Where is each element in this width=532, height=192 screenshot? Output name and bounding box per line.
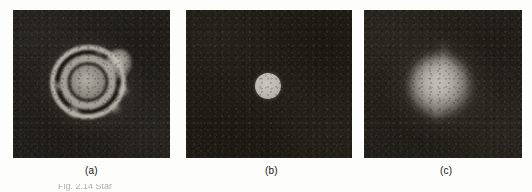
panel-c-label: (c) <box>440 165 452 176</box>
figure-caption-text: Fig. 2.14 Star <box>58 184 112 191</box>
ring-core <box>70 65 105 99</box>
panel-a-label: (a) <box>85 165 98 176</box>
panel-a-diffraction-rings <box>34 28 142 136</box>
panel-a-lobe-top <box>94 46 106 58</box>
panel-b-image <box>186 10 352 158</box>
panel-b-focused-spot <box>255 73 281 99</box>
panel-c-diffuse-blob <box>409 55 471 117</box>
figure-plate: (a) (b) (c) Fig. 2.14 Star <box>0 0 532 192</box>
panel-c-image <box>364 10 522 158</box>
panel-b-label: (b) <box>265 165 278 176</box>
panel-a-image <box>13 10 170 158</box>
panel-a-lobe-bottom-right <box>108 102 122 114</box>
figure-caption-clipped: Fig. 2.14 Star <box>58 184 258 192</box>
panel-a-lobe-right <box>115 84 130 97</box>
panel-a-lobe-left <box>51 81 64 92</box>
